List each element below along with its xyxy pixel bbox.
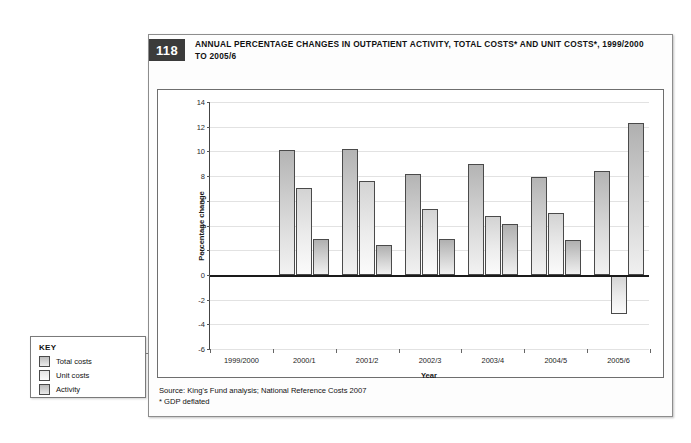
chart-plot-area: Percentage change -6-4-2024681012141999/… xyxy=(209,102,649,349)
x-axis-title: Year xyxy=(421,371,437,380)
y-tick-label: 14 xyxy=(197,98,205,107)
source-line-1: Source: King's Fund analysis; National R… xyxy=(159,385,366,396)
y-tick-label: 2 xyxy=(201,246,205,255)
gridline xyxy=(210,151,649,152)
y-tick-mark xyxy=(207,176,210,177)
y-tick-label: 10 xyxy=(197,147,205,156)
x-tick-mark xyxy=(461,349,462,353)
source-line-2: * GDP deflated xyxy=(159,396,366,407)
gridline xyxy=(210,176,649,177)
bar-activity-2002-3 xyxy=(439,239,455,275)
y-tick-label: 0 xyxy=(201,270,205,279)
x-tick-label: 2001/2 xyxy=(356,356,379,365)
gridline xyxy=(210,127,649,128)
x-tick-label: 2003/4 xyxy=(482,356,505,365)
gridline xyxy=(210,300,649,301)
y-tick-mark xyxy=(207,300,210,301)
bar-activity-2004-5 xyxy=(565,240,581,275)
x-tick-mark xyxy=(210,349,211,353)
x-tick-mark xyxy=(524,349,525,353)
key-swatch-total-costs xyxy=(39,356,50,367)
y-tick-label: -4 xyxy=(198,320,205,329)
y-tick-mark xyxy=(207,250,210,251)
x-tick-label: 2004/5 xyxy=(544,356,567,365)
figure-panel: 118 ANNUAL PERCENTAGE CHANGES IN OUTPATI… xyxy=(148,34,673,417)
y-tick-label: -2 xyxy=(198,295,205,304)
x-tick-label: 2000/1 xyxy=(293,356,316,365)
figure-header: 118 ANNUAL PERCENTAGE CHANGES IN OUTPATI… xyxy=(149,35,672,85)
gridline xyxy=(210,349,649,350)
bar-total-2003-4 xyxy=(468,164,484,275)
bar-activity-2005-6 xyxy=(628,123,644,275)
bar-total-2004-5 xyxy=(531,177,547,275)
key-label-activity: Activity xyxy=(56,385,80,394)
key-title: KEY xyxy=(39,343,145,352)
gridline xyxy=(210,324,649,325)
bar-unit-2004-5 xyxy=(548,213,564,275)
y-tick-label: 6 xyxy=(201,196,205,205)
bar-activity-2003-4 xyxy=(502,224,518,275)
gridline xyxy=(210,201,649,202)
y-tick-label: -6 xyxy=(198,345,205,354)
plot-inner: -6-4-2024681012141999/20002000/12001/220… xyxy=(209,102,649,349)
y-tick-mark xyxy=(207,226,210,227)
y-tick-mark xyxy=(207,127,210,128)
bar-unit-2002-3 xyxy=(422,209,438,274)
figure-number-badge: 118 xyxy=(149,39,185,61)
bar-unit-2000-1 xyxy=(296,188,312,274)
bar-total-2000-1 xyxy=(279,150,295,275)
bar-activity-2000-1 xyxy=(313,239,329,275)
key-swatch-activity xyxy=(39,384,50,395)
y-tick-label: 4 xyxy=(201,221,205,230)
key-item-unit-costs: Unit costs xyxy=(39,370,145,381)
y-tick-mark xyxy=(207,324,210,325)
bar-total-2005-6 xyxy=(594,171,610,275)
key-item-total-costs: Total costs xyxy=(39,356,145,367)
y-tick-label: 8 xyxy=(201,172,205,181)
figure-title: ANNUAL PERCENTAGE CHANGES IN OUTPATIENT … xyxy=(195,39,655,62)
key-label-total-costs: Total costs xyxy=(56,357,92,366)
bar-unit-2001-2 xyxy=(359,181,375,275)
key-label-unit-costs: Unit costs xyxy=(56,371,89,380)
y-tick-mark xyxy=(207,102,210,103)
x-tick-mark xyxy=(273,349,274,353)
bar-total-2001-2 xyxy=(342,149,358,275)
key-legend-box: KEY Total costs Unit costs Activity xyxy=(30,336,146,398)
bar-activity-2001-2 xyxy=(376,245,392,275)
y-tick-mark xyxy=(207,151,210,152)
x-tick-label: 1999/2000 xyxy=(224,356,259,365)
zero-line xyxy=(210,275,649,277)
bar-total-2002-3 xyxy=(405,174,421,275)
key-swatch-unit-costs xyxy=(39,370,50,381)
x-tick-label: 2002/3 xyxy=(419,356,442,365)
bar-unit-2003-4 xyxy=(485,216,501,275)
x-tick-mark xyxy=(336,349,337,353)
y-tick-label: 12 xyxy=(197,122,205,131)
x-tick-mark xyxy=(587,349,588,353)
source-note: Source: King's Fund analysis; National R… xyxy=(159,385,366,407)
x-tick-label: 2005/6 xyxy=(607,356,630,365)
bar-unit-2005-6 xyxy=(611,275,627,315)
x-tick-mark xyxy=(399,349,400,353)
key-item-activity: Activity xyxy=(39,384,145,395)
chart-frame: Percentage change -6-4-2024681012141999/… xyxy=(157,89,664,378)
gridline xyxy=(210,102,649,103)
x-tick-mark xyxy=(650,349,651,353)
y-tick-mark xyxy=(207,201,210,202)
